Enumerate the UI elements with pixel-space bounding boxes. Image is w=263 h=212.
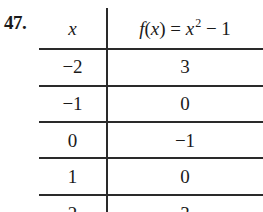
header-fx: f(x) = x2 − 1 bbox=[107, 19, 263, 38]
cell-fx: 0 bbox=[107, 167, 263, 186]
cell-x: 1 bbox=[39, 167, 106, 186]
header-fx-rhs-rest: − 1 bbox=[201, 18, 231, 39]
cell-x: −2 bbox=[39, 57, 106, 76]
row-divider bbox=[39, 85, 263, 87]
cell-fx: 3 bbox=[107, 57, 263, 76]
row-divider bbox=[39, 48, 263, 50]
cell-x: −1 bbox=[39, 94, 106, 113]
row-divider bbox=[39, 121, 263, 123]
cell-fx: 0 bbox=[107, 94, 263, 113]
cell-x: 2 bbox=[39, 204, 106, 212]
problem-number: 47. bbox=[4, 12, 26, 34]
header-fx-equals: = bbox=[166, 18, 186, 39]
header-fx-exponent: 2 bbox=[195, 16, 201, 30]
row-divider bbox=[39, 194, 263, 196]
row-divider bbox=[39, 157, 263, 159]
cell-fx: −1 bbox=[107, 131, 263, 150]
header-fx-var: x bbox=[151, 18, 159, 39]
cell-fx: 3 bbox=[107, 204, 263, 212]
header-x: x bbox=[39, 19, 106, 38]
cell-x: 0 bbox=[39, 131, 106, 150]
header-fx-rhs-var: x bbox=[186, 18, 194, 39]
